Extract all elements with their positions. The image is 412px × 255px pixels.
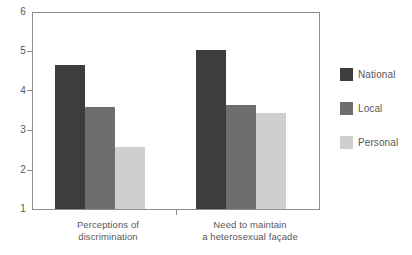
x-group-label-perceptions: Perceptions of discrimination [48,219,168,243]
legend-item-local: Local [340,102,412,115]
x-group-label-perceptions-line2: discrimination [48,231,168,243]
legend-swatch-personal-icon [340,136,353,149]
legend-item-national: National [340,68,412,81]
y-tick-label-4: 4 [0,86,26,96]
bar-local-facade [226,105,256,209]
legend-item-personal: Personal [340,136,412,149]
x-group-label-facade-line2: a heterosexual façade [185,231,315,243]
x-group-label-perceptions-line1: Perceptions of [48,219,168,231]
y-tick-label-1: 1 [0,204,26,214]
legend: National Local Personal [340,68,412,170]
bar-local-perceptions [85,107,115,209]
x-tick-mark-group-divider [176,210,177,215]
bar-personal-perceptions [115,147,145,209]
x-group-label-facade-line1: Need to maintain [185,219,315,231]
legend-label-national: National [358,69,396,80]
bar-chart-figure: 6 5 4 3 2 1 Perceptions of discriminatio… [0,0,412,255]
x-group-label-facade: Need to maintain a heterosexual façade [185,219,315,243]
y-tick-label-6: 6 [0,7,26,17]
plot-area [33,13,319,209]
y-tick-label-3: 3 [0,125,26,135]
y-tick-label-2: 2 [0,165,26,175]
y-tick-label-5: 5 [0,46,26,56]
bar-personal-facade [256,113,286,209]
legend-swatch-local-icon [340,102,353,115]
bar-national-facade [196,50,226,209]
bar-national-perceptions [55,65,85,209]
y-axis: 6 5 4 3 2 1 [0,0,26,255]
legend-label-personal: Personal [358,137,398,148]
legend-swatch-national-icon [340,68,353,81]
legend-label-local: Local [358,103,382,114]
